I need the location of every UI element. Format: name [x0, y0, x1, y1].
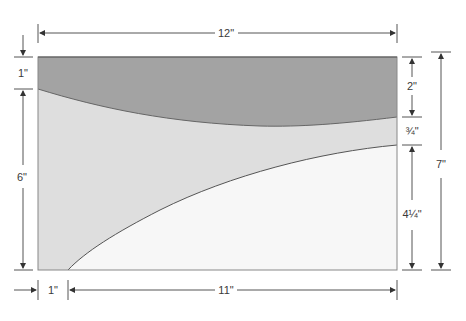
- dimension-bottom-curve-span: 11": [70, 280, 397, 300]
- label-bottom-left-offset: 1": [48, 284, 58, 296]
- panel: [38, 57, 397, 270]
- cutting-diagram: 12" 1" 6" 2" ¾" 4¼" 7": [0, 0, 466, 321]
- label-left-band-height: 6": [17, 171, 27, 183]
- label-bottom-curve-span: 11": [218, 284, 233, 296]
- label-right-top-band: 2": [407, 80, 417, 92]
- label-overall-height: 7": [436, 158, 446, 170]
- dimension-overall-width: 12": [38, 24, 397, 43]
- dimension-right-bottom-region: 4¼": [402, 147, 422, 270]
- label-overall-width: 12": [218, 27, 234, 39]
- dimension-right-top-band: 2": [402, 57, 422, 117]
- label-right-bottom-region: 4¼": [402, 208, 421, 220]
- dimension-right-middle-band: ¾": [402, 125, 422, 145]
- label-left-top-offset: 1": [18, 67, 28, 79]
- dimension-bottom-left-offset: 1": [14, 280, 68, 300]
- label-right-middle-band: ¾": [405, 125, 418, 137]
- dimension-overall-height: 7": [431, 52, 451, 270]
- dimension-left-band-height: 6": [14, 91, 33, 270]
- dimension-left-top-offset: 1": [14, 35, 33, 89]
